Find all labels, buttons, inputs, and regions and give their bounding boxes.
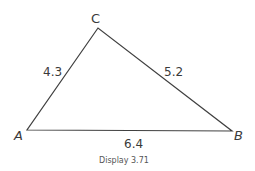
side-label-ab: 6.4 xyxy=(124,137,143,151)
vertex-label-b: B xyxy=(234,128,243,143)
triangle-diagram: C A B 4.3 5.2 6.4 Display 3.71 xyxy=(0,0,255,171)
side-label-ac: 4.3 xyxy=(43,65,62,79)
triangle-abc xyxy=(27,28,232,131)
side-label-cb: 5.2 xyxy=(164,65,183,79)
figure-caption: Display 3.71 xyxy=(99,156,149,165)
vertex-label-a: A xyxy=(13,128,23,143)
vertex-label-c: C xyxy=(91,11,100,26)
